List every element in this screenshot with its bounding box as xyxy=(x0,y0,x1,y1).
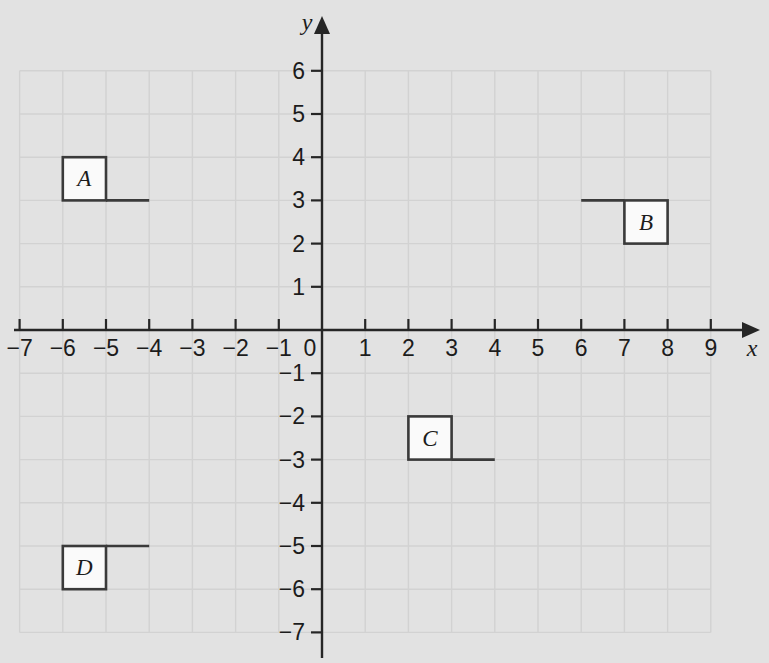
x-axis-tick-label: 8 xyxy=(661,335,674,361)
figure-canvas: −7−6−5−4−3−2−1123456789654321−1−2−3−4−5−… xyxy=(0,0,769,663)
y-axis-tick-label: 1 xyxy=(292,274,305,300)
shape-letter-label: C xyxy=(422,426,438,451)
x-axis-tick-label: 1 xyxy=(359,335,372,361)
origin-label: 0 xyxy=(304,335,317,361)
shape-letter-label: D xyxy=(75,555,93,580)
x-axis-name: x xyxy=(746,335,758,361)
shape-letter-label: B xyxy=(639,210,653,235)
x-axis-tick-label: 5 xyxy=(532,335,545,361)
x-axis-tick-label: 4 xyxy=(488,335,501,361)
x-axis-tick-label: 7 xyxy=(618,335,631,361)
x-axis-tick-label: −3 xyxy=(179,335,205,361)
axes xyxy=(14,16,760,658)
shape-letter-label: A xyxy=(75,166,92,191)
y-axis-tick-label: −3 xyxy=(279,447,305,473)
y-axis-tick-label: −6 xyxy=(279,576,305,602)
y-axis-tick-label: −5 xyxy=(279,533,305,559)
axis-names: xy xyxy=(300,9,758,361)
x-axis-tick-label: −5 xyxy=(93,335,119,361)
y-axis-tick-label: −7 xyxy=(279,619,305,645)
y-axis-arrowhead xyxy=(314,16,330,34)
shape-c: C xyxy=(408,416,494,459)
axis-tick-labels: −7−6−5−4−3−2−1123456789654321−1−2−3−4−5−… xyxy=(6,58,717,646)
y-axis-tick-label: 4 xyxy=(292,144,305,170)
x-axis-tick-label: −4 xyxy=(136,335,162,361)
x-axis-tick-label: 2 xyxy=(402,335,415,361)
shape-b: B xyxy=(581,200,667,243)
y-axis-tick-label: −1 xyxy=(279,360,305,386)
y-axis-tick-label: −2 xyxy=(279,403,305,429)
x-axis-tick-label: 6 xyxy=(575,335,588,361)
shape-d: D xyxy=(63,546,149,589)
y-axis-tick-label: 2 xyxy=(292,231,305,257)
shape-a: A xyxy=(63,157,149,200)
y-axis-tick-label: 6 xyxy=(292,58,305,84)
x-axis-tick-label: −6 xyxy=(50,335,76,361)
coordinate-plane: −7−6−5−4−3−2−1123456789654321−1−2−3−4−5−… xyxy=(0,0,769,663)
x-axis-tick-label: −7 xyxy=(6,335,32,361)
x-axis-tick-label: 9 xyxy=(704,335,717,361)
y-axis-name: y xyxy=(300,9,313,35)
y-axis-tick-label: −4 xyxy=(279,490,305,516)
x-axis-tick-label: 3 xyxy=(445,335,458,361)
y-axis-tick-label: 3 xyxy=(292,187,305,213)
x-axis-tick-label: −2 xyxy=(222,335,248,361)
y-axis-tick-label: 5 xyxy=(292,101,305,127)
x-axis-tick-label: −1 xyxy=(266,335,292,361)
